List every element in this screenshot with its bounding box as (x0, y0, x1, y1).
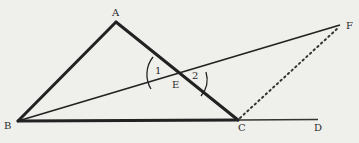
segment-cd (238, 120, 318, 121)
angle-label-2: 2 (192, 70, 198, 81)
angle-label-1: 1 (155, 65, 161, 76)
point-label-a: A (111, 7, 120, 18)
point-label-e: E (172, 79, 179, 90)
point-label-d: D (314, 122, 322, 133)
triangle-diagram: A B C D E F 1 2 (0, 0, 359, 143)
segment-bc (18, 120, 238, 121)
point-label-c: C (238, 122, 246, 133)
point-label-b: B (4, 120, 11, 131)
point-label-f: F (346, 20, 353, 31)
